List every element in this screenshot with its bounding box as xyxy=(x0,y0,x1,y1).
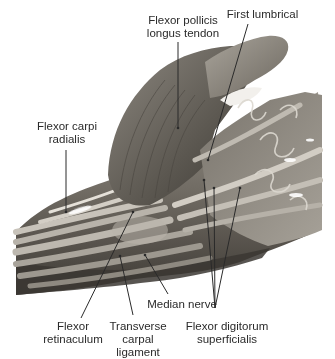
label-transverse-carpal-ligament: Transverse carpal ligament xyxy=(93,320,183,359)
label-median-nerve: Median nerve xyxy=(142,298,222,311)
label-first-lumbrical: First lumbrical xyxy=(215,8,310,21)
label-flexor-digitorum-superficialis: Flexor digitorum superficialis xyxy=(182,320,272,346)
label-flexor-carpi-radialis: Flexor carpi radialis xyxy=(28,120,106,146)
